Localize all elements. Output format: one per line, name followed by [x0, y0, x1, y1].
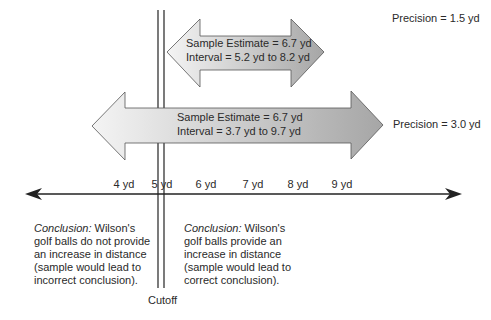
- wide-interval-label: Interval = 3.7 yd to 9.7 yd: [177, 125, 301, 138]
- narrow-interval-label: Interval = 5.2 yd to 8.2 yd: [186, 51, 310, 64]
- wide-estimate-label: Sample Estimate = 6.7 yd: [177, 111, 303, 124]
- tick-8yd: 8 yd: [288, 178, 309, 190]
- tick-6yd: 6 yd: [196, 178, 217, 190]
- cutoff-line: [158, 10, 164, 288]
- right-conclusion-lead: Conclusion:: [184, 222, 241, 234]
- narrow-estimate-label: Sample Estimate = 6.7 yd: [186, 37, 312, 50]
- tick-4yd: 4 yd: [114, 178, 135, 190]
- left-conclusion: Conclusion: Wilson's golf balls do not p…: [34, 222, 152, 287]
- narrow-precision-label: Precision = 1.5 yd: [392, 12, 480, 25]
- tick-7yd: 7 yd: [243, 178, 264, 190]
- right-conclusion: Conclusion: Wilson's golf balls provide …: [184, 222, 294, 287]
- left-conclusion-lead: Conclusion:: [34, 222, 91, 234]
- tick-5yd: 5 yd: [152, 178, 173, 190]
- cutoff-label: Cutoff: [148, 294, 177, 307]
- wide-precision-label: Precision = 3.0 yd: [393, 118, 481, 131]
- tick-9yd: 9 yd: [332, 178, 353, 190]
